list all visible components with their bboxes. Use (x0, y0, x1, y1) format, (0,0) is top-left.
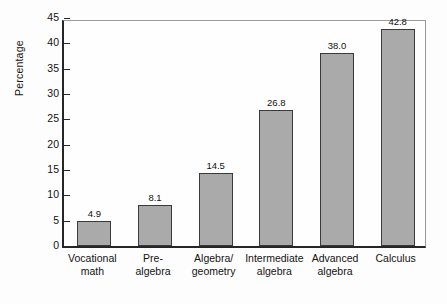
x-axis-category-label: Pre- algebra (123, 252, 184, 277)
y-axis-tick-label: 40 (47, 36, 59, 49)
y-axis-tick-mark (64, 221, 70, 222)
y-axis-tick-label: 35 (47, 62, 59, 75)
bar-value-label: 38.0 (328, 40, 347, 51)
bar-chart-figure: Percentage 051015202530354045 4.98.114.5… (0, 0, 447, 304)
x-axis-category-label: Advanced algebra (305, 252, 366, 277)
y-axis-tick-mark (64, 43, 70, 44)
y-axis-tick-mark (64, 69, 70, 70)
x-axis-category-label: Algebra/ geometry (183, 252, 244, 277)
y-axis-tick-mark (64, 18, 70, 19)
bar-value-label: 4.9 (88, 208, 101, 219)
y-axis-tick-mark (64, 195, 70, 196)
bar-value-label: 42.8 (388, 16, 407, 27)
x-axis-category-label: Intermediate algebra (244, 252, 305, 277)
y-axis-tick-mark (64, 119, 70, 120)
y-axis-tick-label: 25 (47, 112, 59, 125)
bar: 14.5 (199, 173, 233, 246)
bar: 42.8 (381, 29, 415, 246)
bar-value-label: 26.8 (267, 97, 286, 108)
y-axis-title: Percentage (13, 0, 27, 96)
y-axis-tick-label: 15 (47, 163, 59, 176)
y-axis-tick-label: 20 (47, 138, 59, 151)
y-axis-tick-label: 5 (53, 214, 59, 227)
y-axis-tick-label: 30 (47, 87, 59, 100)
bar: 8.1 (138, 205, 172, 246)
y-axis-tick-label: 0 (53, 239, 59, 252)
bar-value-label: 8.1 (148, 192, 161, 203)
y-axis-tick-mark (64, 170, 70, 171)
bar-value-label: 14.5 (206, 160, 225, 171)
x-axis-category-label: Calculus (365, 252, 426, 265)
y-axis-tick-mark (64, 94, 70, 95)
bar: 26.8 (259, 110, 293, 246)
y-axis-tick-mark (64, 246, 70, 247)
y-axis-tick-label: 45 (47, 11, 59, 24)
y-axis-title-text: Percentage (13, 0, 25, 96)
bar: 4.9 (77, 221, 111, 246)
plot-area: 051015202530354045 4.98.114.526.838.042.… (62, 20, 426, 248)
bar: 38.0 (320, 53, 354, 246)
y-axis-tick-mark (64, 145, 70, 146)
x-axis-category-label: Vocational math (62, 252, 123, 277)
y-axis-tick-label: 10 (47, 188, 59, 201)
